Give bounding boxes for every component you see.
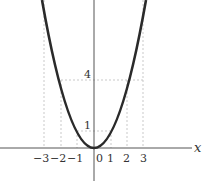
tick-x-minus3: −3 (33, 152, 49, 165)
tick-y-4: 4 (84, 68, 91, 81)
parabola-chart: x −3 −2 −1 0 1 2 3 1 4 (0, 0, 217, 181)
tick-x-minus1: −1 (67, 152, 83, 165)
tick-x-2: 2 (123, 152, 130, 165)
x-axis-label: x (194, 140, 202, 155)
tick-x-minus2: −2 (50, 152, 66, 165)
tick-x-0: 0 (96, 152, 103, 165)
tick-x-3: 3 (140, 152, 147, 165)
tick-x-1: 1 (107, 152, 114, 165)
tick-y-1: 1 (84, 119, 91, 132)
